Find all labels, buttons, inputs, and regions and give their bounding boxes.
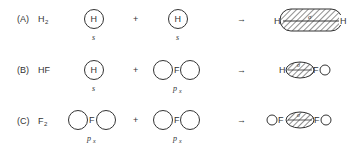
p-orbital-lobe — [97, 111, 116, 130]
svg-text:H: H — [91, 14, 98, 24]
svg-text:s: s — [92, 33, 95, 42]
arrow: → — [237, 65, 246, 75]
p-orbital-back-lobe — [321, 115, 331, 125]
arrow: → — [237, 14, 246, 24]
sigma-label: σ — [308, 13, 312, 21]
p-orbital-lobe — [154, 111, 173, 130]
p-orbital-back-lobe — [267, 115, 277, 125]
svg-text:s: s — [92, 84, 95, 93]
svg-text:F: F — [174, 115, 180, 125]
svg-text:2: 2 — [45, 19, 49, 25]
svg-text:H: H — [279, 65, 286, 75]
svg-text:F: F — [278, 115, 284, 125]
svg-text:F: F — [89, 115, 95, 125]
plus-sign: + — [133, 14, 138, 24]
p-orbital-lobe — [181, 61, 200, 80]
svg-text:F: F — [314, 115, 320, 125]
plus-sign: + — [133, 65, 138, 75]
svg-text:F: F — [313, 65, 319, 75]
row-b: (B) HF H s + F p x → H F σ — [17, 61, 330, 95]
plus-sign: + — [133, 115, 138, 125]
molecule-name: HF — [38, 65, 50, 75]
svg-text:x: x — [178, 88, 182, 94]
row-a: (A) H 2 H s + H s → H H σ — [17, 9, 347, 42]
row-c: (C) F 2 F p x + F p x → F F σ — [17, 111, 331, 145]
svg-text:H: H — [274, 16, 281, 26]
svg-text:F: F — [174, 65, 180, 75]
row-label: (C) — [17, 116, 30, 126]
p-orbital-lobe — [181, 111, 200, 130]
p-orbital-back-lobe — [320, 65, 330, 75]
molecule-name: H — [38, 14, 45, 24]
p-orbital-lobe — [69, 111, 88, 130]
svg-text:x: x — [92, 138, 96, 144]
svg-text:H: H — [340, 16, 347, 26]
p-orbital-lobe — [154, 61, 173, 80]
svg-text:H: H — [175, 14, 182, 24]
svg-text:p: p — [86, 134, 91, 143]
svg-text:p: p — [172, 84, 177, 93]
row-label: (A) — [17, 14, 29, 24]
svg-text:2: 2 — [44, 121, 48, 127]
arrow: → — [237, 115, 246, 125]
svg-text:H: H — [91, 65, 98, 75]
sigma-bond-diagram: (A) H 2 H s + H s → H H σ (B) HF H s + F… — [0, 0, 348, 148]
svg-text:s: s — [176, 33, 179, 42]
svg-text:p: p — [172, 134, 177, 143]
row-label: (B) — [17, 65, 29, 75]
svg-text:x: x — [178, 138, 182, 144]
